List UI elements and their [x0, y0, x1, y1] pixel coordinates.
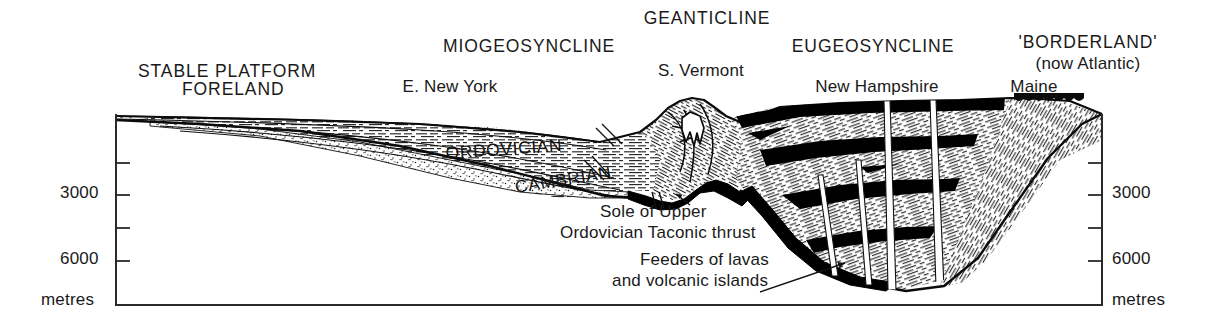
province-label-geanticline: GEANTICLINE	[644, 9, 771, 28]
cross-section-figure: ORDOVICIAN CAMBRIAN STABLE PLATFORM FORE…	[0, 0, 1219, 331]
left-axis-unit-label: metres	[41, 291, 94, 309]
right-axis-tick-6000: 6000	[1112, 250, 1151, 268]
province-label-miogeosyncline: MIOGEOSYNCLINE	[443, 37, 615, 56]
place-label-s-vermont: S. Vermont	[658, 62, 744, 80]
province-label-foreland: FORELAND	[182, 80, 285, 99]
annotation-ordovician-taconic-thrust: Ordovician Taconic thrust	[560, 224, 756, 242]
place-label-e-new-york: E. New York	[403, 78, 498, 96]
right-axis-tick-3000: 3000	[1112, 184, 1151, 202]
annotation-sole-of-upper: Sole of Upper	[600, 203, 707, 221]
geanticline-keel	[682, 112, 704, 146]
left-axis-tick-6000: 6000	[60, 250, 99, 268]
province-label-borderland: 'BORDERLAND'	[1018, 33, 1157, 52]
place-label-new-hampshire: New Hampshire	[815, 78, 939, 96]
province-label-now-atlantic: (now Atlantic)	[1036, 55, 1141, 73]
province-label-eugeosyncline: EUGEOSYNCLINE	[792, 37, 954, 56]
left-axis-tick-3000: 3000	[60, 184, 99, 202]
annotation-feeders-of-lavas: Feeders of lavas	[640, 251, 769, 269]
place-label-maine: Maine	[1010, 78, 1057, 96]
right-axis-unit-label: metres	[1112, 291, 1165, 309]
annotation-and-volcanic-islands: and volcanic islands	[612, 272, 768, 290]
